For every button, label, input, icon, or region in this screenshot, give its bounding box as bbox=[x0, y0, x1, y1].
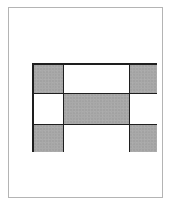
grid-cell-r1-c0-empty bbox=[34, 94, 63, 124]
grid-cell-r0-c0-shaded bbox=[34, 65, 63, 93]
grid-cell-r2-c2-shaded bbox=[130, 125, 157, 152]
grid-cell-r2-c1-empty bbox=[64, 125, 129, 152]
page-outline bbox=[8, 7, 163, 198]
grid-cell-r2-c0-shaded bbox=[34, 125, 63, 152]
grid-cell-r0-c2-shaded bbox=[130, 65, 157, 93]
grid-cell-r1-c2-empty bbox=[130, 94, 157, 124]
grid-cell-r0-c1-empty bbox=[64, 65, 129, 93]
grid-3x3 bbox=[32, 63, 157, 152]
grid-cell-r1-c1-shaded bbox=[64, 94, 129, 124]
